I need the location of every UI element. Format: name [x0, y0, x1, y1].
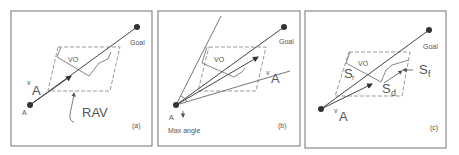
label-c-v-sub: A	[339, 109, 348, 124]
panel-c-tag: (c)	[430, 124, 438, 132]
agent-a-dot	[318, 106, 324, 112]
goal-dot	[426, 27, 432, 33]
label-c-v: v	[334, 107, 338, 114]
label-a-start: A	[22, 109, 27, 116]
panel-b: A Goal v A VO Max angle (b)	[158, 11, 300, 146]
label-b-v-sub: A	[271, 71, 280, 86]
agent-a-dot	[27, 102, 33, 108]
goal-dot	[281, 24, 287, 30]
label-c-goal: Goal	[423, 43, 438, 50]
label-c-vo: VO	[358, 60, 369, 67]
goal-dot	[134, 24, 140, 30]
panel-a: A Goal v A VO RAV (a)	[11, 11, 152, 146]
label-b-goal: Goal	[279, 38, 294, 45]
label-b-vo: VO	[214, 56, 225, 63]
label-a-vo: VO	[68, 56, 79, 63]
label-b-max-angle: Max angle	[168, 127, 200, 135]
panel-c: Goal v A VO S r S d S f (c)	[305, 11, 446, 148]
label-a-v-sub: A	[32, 83, 41, 98]
panel-a-tag: (a)	[132, 122, 141, 130]
panel-b-tag: (b)	[278, 122, 287, 130]
agent-a-dot	[173, 102, 179, 108]
label-c-sd-sub: d	[391, 88, 396, 98]
label-a-rav: RAV	[82, 105, 108, 120]
velocity-obstacle-figure: A Goal v A VO RAV (a) A Goal v A VO Max …	[0, 0, 459, 155]
label-b-v: v	[266, 69, 270, 76]
label-a-v: v	[27, 79, 31, 86]
label-c-sf: S	[419, 62, 428, 77]
label-c-sd: S	[382, 81, 391, 96]
label-a-goal: Goal	[130, 39, 145, 46]
label-b-start: A	[169, 114, 174, 121]
